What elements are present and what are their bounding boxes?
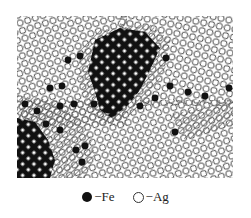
filled-circle-icon [82,192,92,202]
legend-item-fe: −Fe [82,189,114,205]
legend-label-ag: −Ag [146,189,169,205]
legend: −Fe −Ag [0,187,251,207]
open-circle-icon [133,192,144,203]
atomic-structure-diagram [0,0,251,218]
legend-item-ag: −Ag [133,189,169,205]
legend-label-fe: −Fe [94,189,114,205]
